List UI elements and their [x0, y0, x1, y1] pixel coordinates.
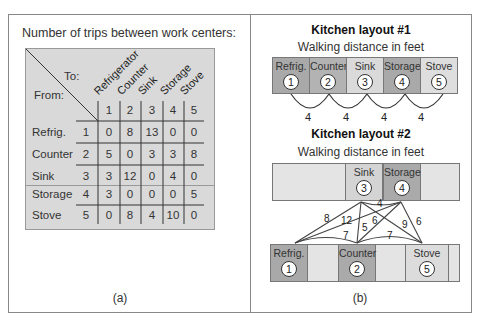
- distance-storage-counter: 6: [372, 215, 378, 226]
- station-number-badge: 5: [431, 74, 447, 90]
- table-cell: 0: [163, 188, 183, 200]
- layout1-station-sink: Sink 3: [346, 57, 384, 94]
- table-cell: 0: [142, 170, 162, 182]
- table-cell: 0: [142, 188, 162, 200]
- station-number-badge: 1: [281, 261, 297, 277]
- table-cell: 3: [142, 148, 162, 160]
- table-cell: 5: [184, 188, 204, 200]
- caption-b: (b): [340, 291, 380, 305]
- row-name: Stove: [32, 209, 61, 221]
- table-cell: 8: [120, 126, 140, 138]
- row-number: 4: [76, 188, 96, 200]
- table-cell: 5: [99, 148, 119, 160]
- layout1-station-storage: Storage 4: [383, 57, 421, 94]
- distance-sink-counter: 5: [362, 222, 368, 233]
- row-name: Counter: [32, 148, 73, 160]
- layout1-subtitle: Walking distance in feet: [250, 40, 472, 54]
- station-number-badge: 4: [394, 74, 410, 90]
- table-cell: 4: [163, 170, 183, 182]
- row-number: 2: [76, 148, 96, 160]
- table-cell: 0: [163, 126, 183, 138]
- trip-matrix-table-lower: Storage 4 3 0 0 0 5 Stove 5 0 8 4 10 0: [25, 186, 215, 230]
- layout1-distance-label: 4: [381, 111, 387, 123]
- table-cell: 13: [142, 126, 162, 138]
- col-number: 1: [99, 104, 119, 116]
- table-cell: 0: [184, 126, 204, 138]
- station-number-badge: 5: [419, 261, 435, 277]
- col-number: 5: [184, 104, 204, 116]
- caption-a: (a): [100, 291, 140, 305]
- table-cell: 8: [184, 148, 204, 160]
- distance-storage-stove: 6: [416, 216, 422, 227]
- distance-counter-stove: 7: [387, 230, 393, 241]
- row-name: Sink: [32, 170, 54, 182]
- station-number-badge: 3: [357, 74, 373, 90]
- table-cell: 10: [163, 209, 183, 221]
- col-number: 4: [163, 104, 183, 116]
- trip-matrix-table: To: From: Refrigerator Counter Sink Stor…: [25, 48, 215, 186]
- to-label: To:: [64, 70, 79, 82]
- table-cell: 8: [120, 209, 140, 221]
- table-cell: 3: [163, 148, 183, 160]
- table-cell: 12: [120, 170, 140, 182]
- distance-sink-refrig: 8: [324, 213, 330, 224]
- from-label: From:: [34, 89, 64, 101]
- table-cell: 3: [99, 188, 119, 200]
- row-name: Refrig.: [32, 126, 66, 138]
- layout2-distance-lines: [250, 190, 472, 250]
- distance-refrig-counter: 7: [343, 230, 349, 241]
- layout1-distance-arcs: [250, 90, 472, 130]
- station-number-badge: 2: [320, 74, 336, 90]
- table-cell: 4: [142, 209, 162, 221]
- row-number: 1: [76, 126, 96, 138]
- distance-sink-stove: 9: [402, 219, 408, 230]
- table-cell: 0: [184, 209, 204, 221]
- col-number: 3: [142, 104, 162, 116]
- row-number: 5: [76, 209, 96, 221]
- layout1-station-counter: Counter 2: [309, 57, 347, 94]
- table-cell: 0: [184, 170, 204, 182]
- layout1-distance-label: 4: [343, 111, 349, 123]
- row-number: 3: [76, 170, 96, 182]
- layout2-subtitle: Walking distance in feet: [250, 145, 472, 159]
- col-number: 2: [120, 104, 140, 116]
- station-number-badge: 1: [283, 74, 299, 90]
- row-name: Storage: [32, 188, 72, 200]
- distance-storage-refrig: 12: [341, 215, 352, 226]
- trip-matrix-title: Number of trips between work centers:: [22, 26, 236, 40]
- table-cell: 0: [120, 148, 140, 160]
- table-cell: 0: [99, 126, 119, 138]
- layout1-distance-label: 4: [418, 111, 424, 123]
- distance-sink-storage: 4: [377, 198, 383, 209]
- layout1-distance-label: 4: [305, 111, 311, 123]
- table-cell: 0: [120, 188, 140, 200]
- layout2-title: Kitchen layout #2: [250, 127, 472, 141]
- table-cell: 0: [99, 209, 119, 221]
- station-number-badge: 2: [349, 261, 365, 277]
- layout1-station-refrig: Refrig. 1: [272, 57, 310, 94]
- layout1-station-stove: Stove 5: [420, 57, 458, 94]
- table-cell: 3: [99, 170, 119, 182]
- layout1-title: Kitchen layout #1: [250, 23, 472, 37]
